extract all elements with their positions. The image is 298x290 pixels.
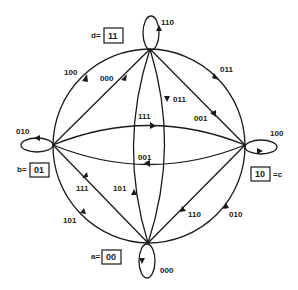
edge-label-da-inner: 011 bbox=[173, 95, 186, 104]
edge-a-to-d-inner bbox=[133, 49, 150, 243]
state-b-code: 01 bbox=[34, 165, 44, 175]
edge-label-bd-chord: 000 bbox=[100, 74, 114, 83]
state-d-code: 11 bbox=[108, 31, 118, 41]
edge-label-ad-inner: 101 bbox=[113, 184, 127, 193]
arrow-icon bbox=[139, 258, 145, 264]
arrow-icon bbox=[80, 208, 86, 214]
state-a: a= 00 bbox=[91, 250, 121, 264]
edge-label-ba-outer: 101 bbox=[63, 216, 77, 225]
arrow-icon bbox=[164, 96, 170, 102]
loop-label-d: 110 bbox=[161, 18, 174, 27]
loop-label-a: 000 bbox=[160, 266, 174, 275]
arrow-icon bbox=[150, 122, 156, 129]
self-loop-b bbox=[21, 138, 53, 152]
edge-label-dc-outer: 011 bbox=[220, 65, 233, 74]
state-b: b= 01 bbox=[17, 163, 49, 177]
self-loop-d bbox=[143, 16, 159, 50]
edge-label-dc-chord: 001 bbox=[194, 114, 208, 123]
edge-label-ab-chord: 111 bbox=[76, 184, 89, 193]
edge-label-ac-outer: 010 bbox=[229, 210, 243, 219]
state-c: 10 =c bbox=[251, 167, 283, 181]
edge-b-to-c-inner bbox=[53, 126, 245, 146]
edge-d-to-a-inner bbox=[148, 49, 165, 243]
loop-label-c: 100 bbox=[270, 129, 284, 138]
state-d: d= 11 bbox=[91, 28, 123, 43]
arrow-icon bbox=[34, 135, 40, 141]
state-c-code: 10 bbox=[255, 169, 265, 179]
state-diagram: d= 11 b= 01 10 =c a= 00 110 010 100 000 … bbox=[0, 0, 298, 290]
state-a-code: 00 bbox=[106, 252, 116, 262]
edge-label-bc-top: 111 bbox=[138, 112, 151, 121]
loop-label-b: 010 bbox=[16, 127, 30, 136]
arrow-icon bbox=[257, 148, 263, 154]
state-b-prefix: b= bbox=[17, 165, 27, 174]
edge-label-cb-bottom: 001 bbox=[138, 153, 152, 162]
state-c-suffix: =c bbox=[273, 170, 283, 179]
state-d-prefix: d= bbox=[91, 31, 101, 40]
edge-label-bd-outer: 100 bbox=[64, 68, 78, 77]
edge-label-ca-chord: 110 bbox=[188, 210, 201, 219]
state-a-prefix: a= bbox=[91, 252, 100, 261]
